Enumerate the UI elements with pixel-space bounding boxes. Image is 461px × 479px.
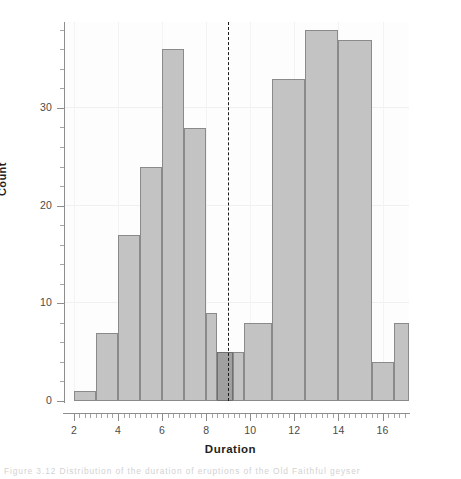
histogram-bar <box>272 79 305 401</box>
x-minor-tick <box>157 414 158 418</box>
figure-caption: Figure 3.12 Distribution of the duration… <box>4 466 456 476</box>
y-minor-tick <box>60 323 64 324</box>
histogram-bar <box>338 40 371 401</box>
x-minor-tick <box>201 414 202 418</box>
y-axis-line <box>64 22 65 403</box>
x-minor-tick <box>322 414 323 418</box>
y-major-tick <box>57 108 64 109</box>
x-minor-tick <box>85 414 86 418</box>
x-axis-tick-label: 2 <box>59 424 89 436</box>
gridline-x-16 <box>383 22 384 401</box>
x-minor-tick <box>405 414 406 418</box>
histogram-bar <box>118 235 140 401</box>
histogram-bar <box>162 49 184 401</box>
x-minor-tick <box>267 414 268 418</box>
x-minor-tick <box>179 414 180 418</box>
x-major-tick <box>383 414 384 421</box>
y-axis-tick-label: 20 <box>26 199 52 211</box>
x-minor-tick <box>239 414 240 418</box>
y-axis-tick-label: 10 <box>26 296 52 308</box>
y-minor-tick <box>60 264 64 265</box>
x-minor-tick <box>223 414 224 418</box>
x-axis-tick-label: 10 <box>235 424 265 436</box>
y-minor-tick <box>60 342 64 343</box>
y-major-tick <box>57 303 64 304</box>
x-minor-tick <box>90 414 91 418</box>
x-minor-tick <box>278 414 279 418</box>
x-minor-tick <box>372 414 373 418</box>
x-minor-tick <box>377 414 378 418</box>
x-minor-tick <box>316 414 317 418</box>
x-minor-tick <box>388 414 389 418</box>
x-minor-tick <box>272 414 273 418</box>
histogram-bar <box>74 391 96 401</box>
y-minor-tick <box>60 147 64 148</box>
x-minor-tick <box>311 414 312 418</box>
y-axis-tick-label: 0 <box>26 394 52 406</box>
x-minor-tick <box>168 414 169 418</box>
histogram-bar <box>372 362 394 401</box>
histogram-bar <box>96 333 118 401</box>
histogram-figure: 0102030 246810121416 Count Duration Figu… <box>0 0 461 479</box>
x-major-tick <box>74 414 75 421</box>
y-minor-tick <box>60 362 64 363</box>
x-minor-tick <box>140 414 141 418</box>
plot-area <box>64 22 409 401</box>
y-minor-tick <box>60 88 64 89</box>
x-axis-tick-label: 8 <box>191 424 221 436</box>
y-major-tick <box>57 401 64 402</box>
histogram-bar <box>206 313 217 401</box>
x-minor-tick <box>256 414 257 418</box>
x-minor-tick <box>195 414 196 418</box>
x-minor-tick <box>300 414 301 418</box>
x-minor-tick <box>151 414 152 418</box>
x-minor-tick <box>135 414 136 418</box>
x-minor-tick <box>79 414 80 418</box>
y-minor-tick <box>60 69 64 70</box>
x-minor-tick <box>349 414 350 418</box>
x-axis-line <box>63 413 410 414</box>
x-minor-tick <box>283 414 284 418</box>
histogram-bar <box>394 323 409 401</box>
x-minor-tick <box>355 414 356 418</box>
x-major-tick <box>206 414 207 421</box>
histogram-bar <box>140 167 162 401</box>
x-minor-tick <box>361 414 362 418</box>
y-axis-title: Count <box>0 162 8 196</box>
y-minor-tick <box>60 127 64 128</box>
x-axis-tick-label: 6 <box>147 424 177 436</box>
x-axis-tick-label: 16 <box>368 424 398 436</box>
x-minor-tick <box>146 414 147 418</box>
x-minor-tick <box>107 414 108 418</box>
x-minor-tick <box>129 414 130 418</box>
y-axis-tick-label: 30 <box>26 101 52 113</box>
y-minor-tick <box>60 381 64 382</box>
x-minor-tick <box>333 414 334 418</box>
y-minor-tick <box>60 245 64 246</box>
y-minor-tick <box>60 225 64 226</box>
x-minor-tick <box>261 414 262 418</box>
histogram-bar <box>244 323 273 401</box>
x-minor-tick <box>101 414 102 418</box>
gridline-x-2 <box>74 22 75 401</box>
x-minor-tick <box>112 414 113 418</box>
x-minor-tick <box>217 414 218 418</box>
x-minor-tick <box>124 414 125 418</box>
histogram-bar <box>184 128 206 402</box>
x-minor-tick <box>344 414 345 418</box>
x-minor-tick <box>190 414 191 418</box>
y-minor-tick <box>60 284 64 285</box>
x-axis-tick-label: 4 <box>103 424 133 436</box>
x-major-tick <box>162 414 163 421</box>
x-minor-tick <box>234 414 235 418</box>
histogram-bar <box>305 30 338 401</box>
histogram-bar <box>233 352 244 401</box>
x-major-tick <box>250 414 251 421</box>
x-axis-title: Duration <box>0 443 461 455</box>
x-major-tick <box>338 414 339 421</box>
x-major-tick <box>294 414 295 421</box>
histogram-bar <box>217 352 232 401</box>
x-minor-tick <box>394 414 395 418</box>
x-minor-tick <box>366 414 367 418</box>
y-minor-tick <box>60 186 64 187</box>
